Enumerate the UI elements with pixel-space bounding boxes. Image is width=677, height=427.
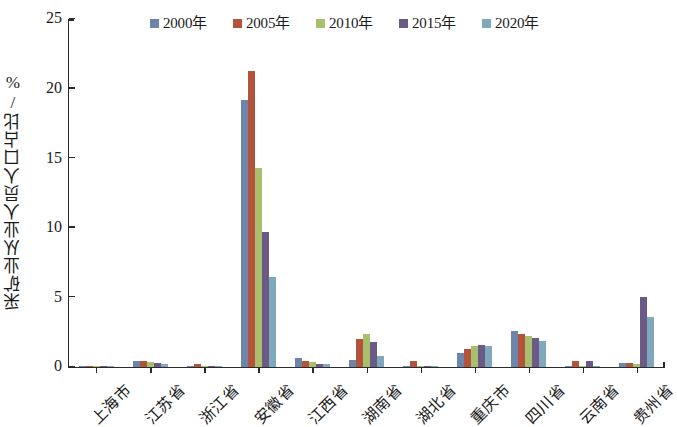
bar-江西省-2000年[interactable] (295, 358, 302, 367)
x-axis-label-cell: 湖北省 (393, 374, 447, 427)
x-axis-tick (312, 367, 313, 373)
bar-上海市-2020年[interactable] (107, 366, 114, 367)
bar-上海市-2005年[interactable] (86, 366, 93, 367)
bar-湖北省-2005年[interactable] (410, 361, 417, 367)
bar-安徽省-2010年[interactable] (255, 168, 262, 367)
x-axis-label-cell: 云南省 (556, 374, 610, 427)
bar-四川省-2000年[interactable] (511, 331, 518, 367)
x-axis-labels: 上海市江苏省浙江省安徽省江西省湖南省湖北省重庆市四川省云南省贵州省 (68, 374, 664, 427)
bar-group-湖北省 (394, 20, 448, 367)
bar-group-浙江省 (177, 20, 231, 367)
bar-上海市-2000年[interactable] (79, 366, 86, 367)
x-axis-tick (421, 367, 422, 373)
x-axis-label-cell: 浙江省 (176, 374, 230, 427)
bar-贵州省-2020年[interactable] (647, 317, 654, 367)
bar-重庆市-2000年[interactable] (457, 353, 464, 367)
bar-四川省-2020年[interactable] (539, 341, 546, 367)
bar-浙江省-2005年[interactable] (194, 364, 201, 367)
x-axis-tick (475, 367, 476, 373)
bar-江苏省-2005年[interactable] (140, 361, 147, 367)
x-axis-label-cell: 江西省 (285, 374, 339, 427)
bar-groups (69, 20, 664, 367)
y-axis-tick-label: 25 (46, 9, 62, 27)
bar-group-重庆市 (448, 20, 502, 367)
x-axis-label-cell: 四川省 (502, 374, 556, 427)
bar-重庆市-2005年[interactable] (464, 349, 471, 367)
bar-浙江省-2020年[interactable] (215, 366, 222, 367)
y-axis-label: 采矿业从业人员人口占比/% (2, 26, 24, 356)
bar-group-四川省 (502, 20, 556, 367)
bar-云南省-2005年[interactable] (572, 361, 579, 367)
bar-重庆市-2010年[interactable] (471, 346, 478, 367)
x-axis-tick (583, 367, 584, 373)
bar-四川省-2005年[interactable] (518, 334, 525, 367)
bar-江苏省-2020年[interactable] (161, 364, 168, 367)
bar-江西省-2020年[interactable] (323, 364, 330, 367)
bar-浙江省-2015年[interactable] (208, 366, 215, 367)
x-axis-tick (204, 367, 205, 373)
bar-重庆市-2015年[interactable] (478, 345, 485, 367)
x-axis-label-cell: 上海市 (68, 374, 122, 427)
bar-group-江苏省 (123, 20, 177, 367)
x-axis-tick (258, 367, 259, 373)
bar-group-上海市 (69, 20, 123, 367)
bar-云南省-2015年[interactable] (586, 361, 593, 367)
bar-湖南省-2015年[interactable] (370, 342, 377, 367)
x-axis-label-cell: 贵州省 (610, 374, 664, 427)
x-axis-tick (637, 367, 638, 373)
x-axis-tick (367, 367, 368, 373)
y-axis-tick-label: 15 (46, 149, 62, 167)
bar-安徽省-2015年[interactable] (262, 232, 269, 367)
x-axis-label-cell: 湖南省 (339, 374, 393, 427)
bar-贵州省-2005年[interactable] (626, 363, 633, 367)
bar-group-江西省 (285, 20, 339, 367)
bar-湖南省-2005年[interactable] (356, 339, 363, 367)
x-axis-tick (96, 367, 97, 373)
bar-云南省-2000年[interactable] (565, 366, 572, 367)
bar-湖北省-2000年[interactable] (403, 366, 410, 367)
y-axis-tick-label: 20 (46, 79, 62, 97)
bar-安徽省-2000年[interactable] (241, 100, 248, 367)
bar-江西省-2015年[interactable] (316, 364, 323, 367)
x-axis-label-贵州省: 贵州省 (627, 378, 677, 427)
bar-贵州省-2000年[interactable] (619, 363, 626, 367)
y-axis-tick: 25 (69, 18, 75, 19)
plot-area: 0510152025 (68, 20, 664, 368)
y-axis-tick-label: 0 (54, 357, 62, 375)
bar-group-湖南省 (339, 20, 393, 367)
bar-江苏省-2015年[interactable] (154, 363, 161, 367)
x-axis-label-cell: 江苏省 (122, 374, 176, 427)
bar-湖南省-2000年[interactable] (349, 360, 356, 367)
bar-group-贵州省 (610, 20, 664, 367)
bar-group-安徽省 (231, 20, 285, 367)
bar-group-云南省 (556, 20, 610, 367)
bar-湖北省-2020年[interactable] (431, 366, 438, 367)
bar-安徽省-2005年[interactable] (248, 71, 255, 367)
x-axis-tick (529, 367, 530, 373)
x-axis-tick (150, 367, 151, 373)
bar-安徽省-2020年[interactable] (269, 277, 276, 367)
bar-贵州省-2015年[interactable] (640, 297, 647, 367)
bar-湖南省-2020年[interactable] (377, 356, 384, 367)
x-axis-label-cell: 重庆市 (447, 374, 501, 427)
bar-湖南省-2010年[interactable] (363, 334, 370, 367)
bar-四川省-2010年[interactable] (525, 336, 532, 367)
bar-湖北省-2015年[interactable] (424, 366, 431, 367)
bar-上海市-2015年[interactable] (100, 366, 107, 367)
bar-四川省-2015年[interactable] (532, 338, 539, 367)
y-axis-tick-label: 10 (46, 218, 62, 236)
bar-江苏省-2000年[interactable] (133, 361, 140, 367)
bar-浙江省-2000年[interactable] (187, 366, 194, 367)
bar-江西省-2005年[interactable] (302, 361, 309, 367)
y-axis-tick-label: 5 (54, 288, 62, 306)
bar-云南省-2020年[interactable] (593, 366, 600, 367)
bar-重庆市-2020年[interactable] (485, 346, 492, 367)
x-axis-label-cell: 安徽省 (231, 374, 285, 427)
